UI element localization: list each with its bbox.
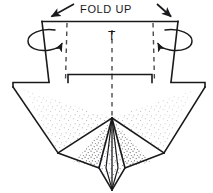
- fold-arrow-left: [52, 4, 75, 17]
- origami-fold-diagram: FOLD UP T: [0, 0, 213, 193]
- center-t-mark: T: [108, 29, 116, 43]
- fold-up-label: FOLD UP: [80, 3, 132, 15]
- fold-arrow-right: [157, 4, 171, 17]
- origami-diagram-panel: FOLD UP T: [0, 0, 213, 193]
